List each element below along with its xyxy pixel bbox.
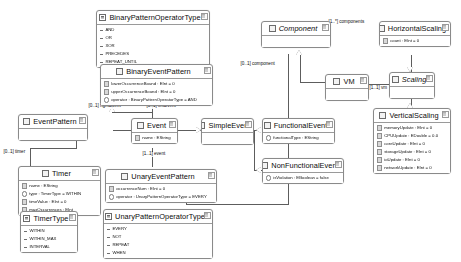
class-icon xyxy=(392,76,399,83)
enum-literal: XOR xyxy=(97,42,209,50)
literal-marker-icon xyxy=(100,46,103,47)
attribute-marker-icon xyxy=(377,165,382,170)
attribute-marker-icon xyxy=(109,186,114,191)
enum-literal: PRECEDES xyxy=(97,50,209,58)
edge-simpleevent-branch xyxy=(254,130,255,170)
enum-literal: AND xyxy=(97,26,209,34)
class-box-vm[interactable]: VM xyxy=(325,74,369,101)
edge-label-component: [0..1] component xyxy=(240,62,275,67)
class-title-timer: Timer xyxy=(19,167,100,180)
class-title-functionalevent: FunctionalEvent xyxy=(263,119,334,132)
resize-handle-icon[interactable] xyxy=(322,24,329,32)
enum-literal: REPEAT xyxy=(104,241,212,249)
class-icon xyxy=(380,25,385,32)
class-icon xyxy=(23,118,30,125)
class-title-verticalscaling: VerticalScaling xyxy=(374,109,450,122)
class-members: occurrenceNum : EInt = 0 operator : Unar… xyxy=(106,183,216,202)
attribute-marker-icon xyxy=(104,97,109,102)
resize-handle-icon[interactable] xyxy=(245,121,252,129)
edge-label-event: [1..1] event xyxy=(142,152,166,157)
generalization-arrow-nonfunctionalevent xyxy=(256,167,261,173)
edge-label-vm: [1..1] vm xyxy=(369,86,388,91)
resize-handle-icon[interactable] xyxy=(92,169,99,177)
class-icon xyxy=(121,173,128,180)
resize-handle-icon[interactable] xyxy=(326,121,333,129)
resize-handle-icon[interactable] xyxy=(204,212,211,220)
enum-literal: INTERVAL xyxy=(21,243,77,251)
class-name: Timer xyxy=(52,170,71,177)
enumeration-icon xyxy=(99,14,106,21)
class-box-binaryeventpattern[interactable]: BinaryEventPattern lowerOccurrenceBound … xyxy=(100,64,213,106)
class-attribute: occurrenceNum : EInt = 0 xyxy=(106,185,216,193)
class-box-unaryeventpattern[interactable]: UnaryEventPattern occurrenceNum : EInt =… xyxy=(105,169,217,203)
edge-vm-up xyxy=(300,54,301,82)
class-box-unarypatternoperatortype[interactable]: UnaryPatternOperatorType EVERY NOT REPEA… xyxy=(103,209,213,259)
class-attribute: count : EInt = 0 xyxy=(380,37,450,45)
class-box-component[interactable]: Component xyxy=(261,21,331,48)
attribute-marker-icon xyxy=(377,133,382,138)
class-box-timer[interactable]: Timer name : EString type : TimerType = … xyxy=(18,166,101,216)
class-box-simpleevent[interactable]: SimpleEvent xyxy=(201,118,254,145)
resize-handle-icon[interactable] xyxy=(201,13,208,21)
class-name: Scaling xyxy=(402,76,427,83)
resize-handle-icon[interactable] xyxy=(79,117,86,125)
edge-label-timer: [0..1] timer xyxy=(3,150,26,155)
literal-marker-icon xyxy=(100,62,103,63)
class-icon xyxy=(202,122,205,129)
resize-handle-icon[interactable] xyxy=(426,75,433,83)
class-attribute: networkUpdate : EInt = 0 xyxy=(374,164,450,172)
class-box-timertype[interactable]: TimerType WITHIN WITHIN_MAX INTERVAL xyxy=(20,211,78,253)
attribute-marker-icon xyxy=(22,191,27,196)
class-attribute: coreUpdate : EInt = 0 xyxy=(374,140,450,148)
class-box-verticalscaling[interactable]: VerticalScaling memoryUpdate : EInt = 0 … xyxy=(373,108,451,174)
class-box-event[interactable]: Event name : EString xyxy=(131,118,178,144)
class-box-nonfunctionalevent[interactable]: NonFunctionalEvent isViolation : EBoolea… xyxy=(262,158,344,184)
literal-marker-icon xyxy=(24,247,27,248)
class-attribute: storageUpdate : EInt = 0 xyxy=(374,148,450,156)
class-box-horizontalscaling[interactable]: HorizontalScaling count : EInt = 0 xyxy=(379,21,451,47)
resize-handle-icon[interactable] xyxy=(204,67,211,75)
resize-handle-icon[interactable] xyxy=(360,77,367,85)
generalization-arrow-vm xyxy=(296,50,302,55)
attribute-marker-icon xyxy=(383,38,388,43)
class-members: count : EInt = 0 xyxy=(380,35,450,46)
enum-literal: EVERY xyxy=(104,225,212,233)
class-name: VerticalScaling xyxy=(389,112,438,119)
resize-handle-icon[interactable] xyxy=(169,121,176,129)
literal-marker-icon xyxy=(100,38,103,39)
enum-literal: WITHIN_MAX xyxy=(21,235,77,243)
class-name: UnaryEventPattern xyxy=(131,173,194,180)
edge-rightleft-bus xyxy=(112,112,153,113)
attribute-marker-icon xyxy=(135,135,140,140)
resize-handle-icon[interactable] xyxy=(442,24,449,32)
class-box-binarypatternoperatortype[interactable]: BinaryPatternOperatorType AND OR XOR PRE… xyxy=(96,10,210,68)
class-title-binarypatternoperatortype: BinaryPatternOperatorType xyxy=(97,11,209,24)
class-name: FunctionalEvent xyxy=(274,122,328,129)
class-box-eventpattern[interactable]: EventPattern xyxy=(18,114,88,141)
uml-class-diagram-canvas: [0..1] rightEvent [0..1] leftEvent [0..1… xyxy=(0,0,461,262)
class-name: BinaryPatternOperatorType xyxy=(109,14,200,21)
enum-literal: OR xyxy=(97,34,209,42)
class-name: HorizontalScaling xyxy=(388,25,446,32)
class-name: UnaryPatternOperatorType xyxy=(115,213,205,220)
class-members: functionalType : EString xyxy=(263,132,334,143)
class-members xyxy=(390,86,434,98)
class-box-functionalevent[interactable]: FunctionalEvent functionalType : EString xyxy=(262,118,335,144)
resize-handle-icon[interactable] xyxy=(442,111,449,119)
edge-eventpattern-timer-h xyxy=(30,148,76,149)
literal-marker-icon xyxy=(24,231,27,232)
class-members: memoryUpdate : EInt = 0 CPUUpdate : EDou… xyxy=(374,122,450,173)
class-name: EventPattern xyxy=(33,118,76,125)
resize-handle-icon[interactable] xyxy=(69,214,76,222)
class-title-horizontalscaling: HorizontalScaling xyxy=(380,22,450,35)
resize-handle-icon[interactable] xyxy=(335,161,342,169)
class-icon xyxy=(263,162,268,169)
literal-marker-icon xyxy=(107,245,110,246)
class-members: name : EString xyxy=(132,132,177,143)
class-name: NonFunctionalEvent xyxy=(271,162,338,169)
class-attribute: isViolation : EBoolean = false xyxy=(263,174,343,182)
class-box-scaling[interactable]: Scaling xyxy=(389,72,435,99)
resize-handle-icon[interactable] xyxy=(208,172,215,180)
literal-marker-icon xyxy=(100,30,103,31)
class-members: EVERY NOT REPEAT WHEN xyxy=(104,223,212,258)
